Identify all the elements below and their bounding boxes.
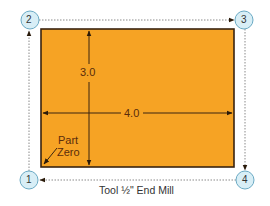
point-1-label: 1	[26, 174, 32, 186]
width-label: 4.0	[124, 107, 139, 119]
tool-path-diagram	[0, 0, 270, 206]
tool-caption: Tool ½" End Mill	[99, 184, 174, 196]
point-3-label: 3	[241, 14, 247, 26]
point-4-label: 4	[242, 174, 248, 186]
part-zero-label-line1: Part	[58, 134, 78, 146]
height-label: 3.0	[80, 66, 95, 78]
part-zero-label-line2: Zero	[57, 146, 80, 158]
point-2-label: 2	[26, 14, 32, 26]
